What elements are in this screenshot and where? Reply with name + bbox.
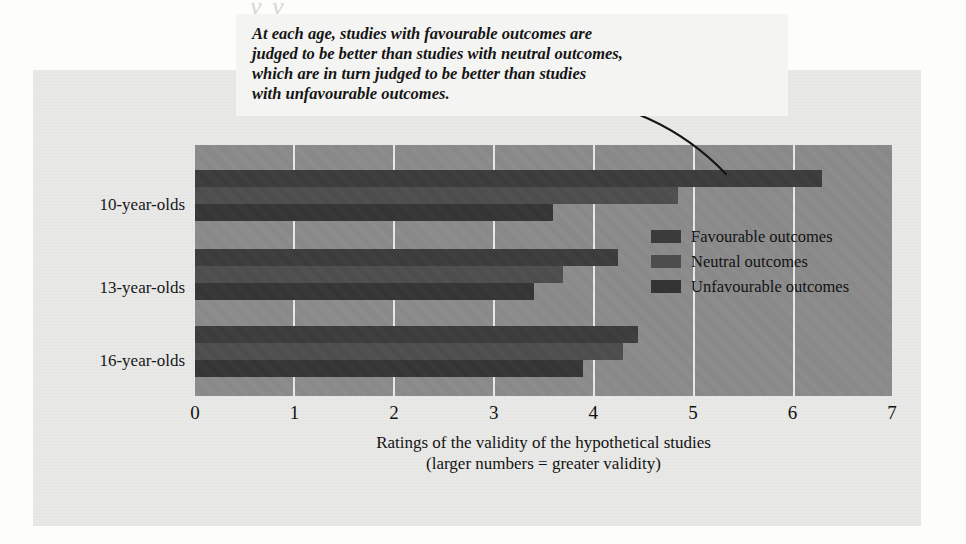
tick-label-0: 0	[175, 402, 215, 424]
tick-label-4: 4	[573, 402, 613, 424]
legend: Favourable outcomes Neutral outcomes Unf…	[651, 224, 849, 299]
tick-label-6: 6	[772, 402, 812, 424]
bar-10-year-olds-neutral	[195, 187, 678, 204]
annotation-text: At each age, studies with favourable out…	[252, 24, 774, 104]
tick-label-3: 3	[474, 402, 514, 424]
bar-13-year-olds-unfavourable	[195, 283, 534, 300]
legend-label-neutral: Neutral outcomes	[691, 252, 808, 272]
category-axis: 10-year-olds 13-year-olds 16-year-olds	[10, 145, 185, 396]
value-axis: 0 1 2 3 4 5 6 7	[195, 402, 892, 428]
axis-title-line-1: Ratings of the validity of the hypotheti…	[195, 432, 892, 453]
legend-label-unfavourable: Unfavourable outcomes	[691, 277, 849, 297]
axis-title: Ratings of the validity of the hypotheti…	[195, 432, 892, 474]
tick-label-1: 1	[275, 402, 315, 424]
bar-16-year-olds-unfavourable	[195, 360, 583, 377]
bar-10-year-olds-unfavourable	[195, 204, 553, 221]
category-label-1: 13-year-olds	[15, 278, 185, 298]
legend-item-unfavourable: Unfavourable outcomes	[651, 274, 849, 299]
legend-item-neutral: Neutral outcomes	[651, 249, 849, 274]
bar-16-year-olds-neutral	[195, 343, 623, 360]
axis-title-line-2: (larger numbers = greater validity)	[195, 453, 892, 474]
category-label-0: 10-year-olds	[15, 195, 185, 215]
bar-16-year-olds-favourable	[195, 326, 638, 343]
annotation-callout: At each age, studies with favourable out…	[236, 14, 788, 116]
bar-13-year-olds-neutral	[195, 266, 563, 283]
tick-label-5: 5	[673, 402, 713, 424]
legend-item-favourable: Favourable outcomes	[651, 224, 849, 249]
category-label-2: 16-year-olds	[15, 351, 185, 371]
page-background: y y 10-year-olds 13-year-olds 16-year-ol…	[0, 0, 966, 544]
legend-swatch-favourable	[651, 230, 681, 243]
bar-13-year-olds-favourable	[195, 249, 618, 266]
legend-swatch-neutral	[651, 255, 681, 268]
legend-swatch-unfavourable	[651, 280, 681, 293]
legend-label-favourable: Favourable outcomes	[691, 227, 833, 247]
tick-label-7: 7	[872, 402, 912, 424]
tick-label-2: 2	[374, 402, 414, 424]
bar-10-year-olds-favourable	[195, 170, 822, 187]
